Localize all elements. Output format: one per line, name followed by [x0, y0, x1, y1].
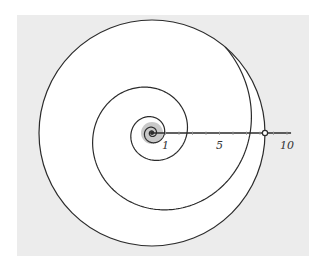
- axis-label: 1: [162, 139, 169, 152]
- axis-point-marker: [262, 130, 267, 135]
- axis-label: 10: [280, 139, 294, 152]
- spiral-figure: 1510: [0, 0, 324, 268]
- spiral-center-dot: [150, 131, 154, 135]
- axis-label: 5: [216, 139, 223, 152]
